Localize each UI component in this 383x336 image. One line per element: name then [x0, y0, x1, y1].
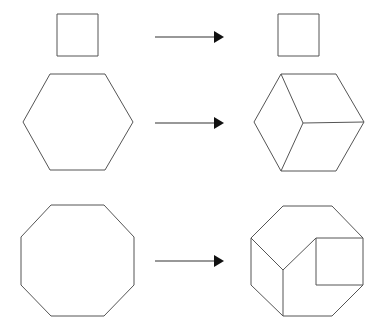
octagon-cut-line-2 — [283, 238, 316, 270]
hexagon-outline — [23, 74, 133, 170]
hexagon-cut-line-1 — [281, 74, 303, 123]
row-octagon — [21, 205, 363, 316]
square-outline — [57, 14, 98, 56]
hexagon-cut-line-2 — [281, 123, 303, 171]
arrow-hexagon — [155, 117, 224, 129]
hexagon-cut-line-3 — [303, 122, 364, 123]
arrow-square-head — [214, 31, 224, 43]
row-square — [57, 14, 319, 56]
arrow-octagon — [155, 255, 224, 267]
arrow-square — [155, 31, 224, 43]
octagon-outline — [21, 205, 134, 316]
figure-canvas — [0, 0, 383, 336]
figure-root — [0, 0, 383, 336]
octagon-cut-line-1 — [251, 238, 283, 270]
arrow-hexagon-head — [214, 117, 224, 129]
row-hexagon — [23, 74, 364, 171]
octagon-dissected-outline — [251, 206, 363, 316]
square-dissected-outline — [278, 14, 319, 56]
arrow-octagon-head — [214, 255, 224, 267]
